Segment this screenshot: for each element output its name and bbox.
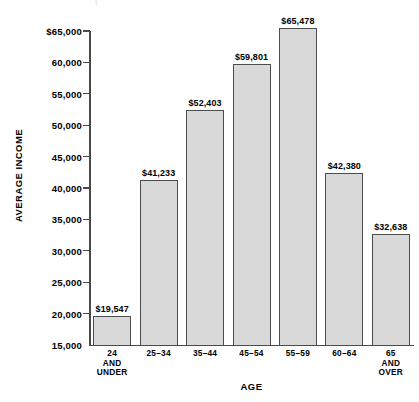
clipped-header-remnant: |: [95, 0, 335, 5]
y-tick-label: $65,000: [0, 26, 82, 37]
bar-chart: | AVERAGE INCOME $65,00060,00055,00050,0…: [0, 0, 419, 402]
y-tick-label: 20,000: [0, 308, 82, 319]
bar-value-label: $32,638: [374, 222, 407, 232]
bar: [325, 173, 363, 345]
x-category-label: 35–44: [193, 349, 217, 359]
y-tick-label: 50,000: [0, 120, 82, 131]
bar-value-label: $42,380: [328, 161, 361, 171]
y-tick-label: 30,000: [0, 245, 82, 256]
bar: [140, 180, 178, 345]
y-tick-label: 60,000: [0, 57, 82, 68]
y-tick-label: 35,000: [0, 214, 82, 225]
x-category-label: 55–59: [286, 349, 310, 359]
bar-value-label: $41,233: [142, 168, 175, 178]
y-axis-tick-labels: $65,00060,00055,00050,00045,00040,00035,…: [0, 0, 82, 402]
bar: [233, 64, 271, 345]
x-category-label: 60–64: [332, 349, 356, 359]
y-tick-label: 45,000: [0, 151, 82, 162]
bar: [372, 234, 410, 345]
y-tick-label: 15,000: [0, 340, 82, 351]
y-tick-label: 25,000: [0, 277, 82, 288]
x-axis-title: AGE: [89, 381, 414, 392]
y-tick-label: 40,000: [0, 183, 82, 194]
bar-value-label: $52,403: [188, 98, 221, 108]
bar-value-label: $19,547: [96, 304, 129, 314]
y-tick-label: 55,000: [0, 88, 82, 99]
bar-value-label: $59,801: [235, 52, 268, 62]
plot-area: $19,547$41,233$52,403$59,801$65,478$42,3…: [89, 31, 414, 345]
x-category-label: 24 AND UNDER: [97, 349, 128, 378]
bar-value-label: $65,478: [281, 16, 314, 26]
x-category-label: 65 AND OVER: [379, 349, 404, 378]
bar: [279, 28, 317, 345]
x-category-label: 45–54: [239, 349, 263, 359]
bar: [186, 110, 224, 345]
bar: [93, 316, 131, 345]
x-category-label: 25–34: [146, 349, 170, 359]
